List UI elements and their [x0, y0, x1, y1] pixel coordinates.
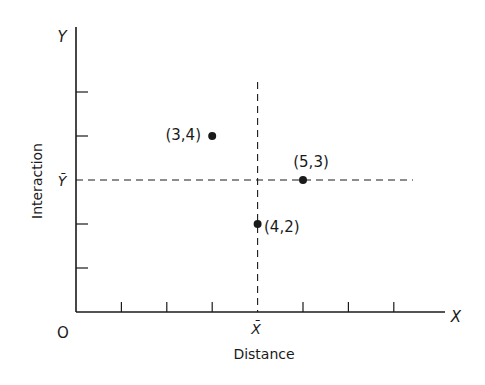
mean-reference-lines — [76, 82, 413, 312]
point-label-4-2: (4,2) — [264, 218, 300, 236]
axes — [76, 27, 445, 312]
origin-label: O — [57, 324, 69, 342]
x-axis-symbol: X — [450, 308, 462, 326]
y-axis-title: Interaction — [29, 143, 45, 219]
y-axis-symbol: Y — [57, 28, 68, 46]
data-point — [299, 176, 307, 184]
data-point — [208, 132, 216, 140]
point-label-3-4: (3,4) — [165, 126, 201, 144]
x-mean-label: X̄ — [250, 320, 261, 337]
axis-ticks — [76, 92, 394, 312]
data-point — [254, 220, 262, 228]
x-axis-title: Distance — [233, 346, 294, 362]
y-mean-label: Ȳ — [58, 173, 68, 189]
scatter-diagram: Y X O X̄ Ȳ Distance Interaction (3,4) (5… — [0, 0, 485, 385]
point-label-5-3: (5,3) — [293, 153, 329, 171]
